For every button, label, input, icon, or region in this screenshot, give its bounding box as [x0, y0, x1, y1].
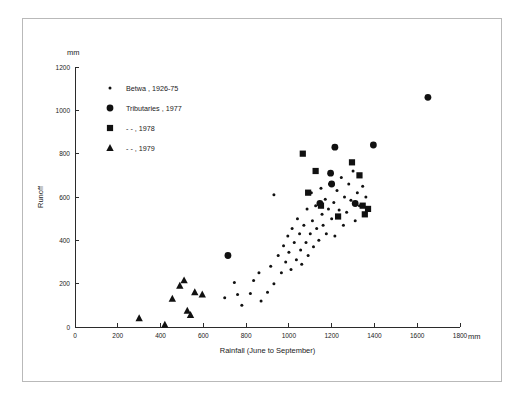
- data-point: [223, 296, 226, 299]
- data-point: [269, 265, 272, 268]
- data-point: [312, 245, 315, 248]
- data-point: [365, 206, 371, 212]
- series-1: [223, 170, 370, 307]
- data-point: [328, 181, 335, 188]
- series-2: [225, 94, 432, 259]
- data-point: [364, 196, 367, 199]
- data-point: [293, 241, 296, 244]
- data-point: [362, 211, 368, 217]
- data-point: [199, 291, 206, 298]
- data-point: [249, 292, 252, 295]
- x-tick-label: 1200: [324, 332, 339, 339]
- legend-label-4: - - , 1979: [126, 144, 155, 153]
- data-point: [352, 170, 355, 173]
- series-4: [135, 276, 205, 327]
- data-point: [252, 279, 255, 282]
- x-tick-label: 600: [198, 332, 209, 339]
- data-point: [327, 207, 330, 210]
- data-point: [225, 252, 232, 259]
- data-point: [349, 199, 352, 202]
- y-tick-label: 400: [59, 237, 70, 244]
- legend-label-3: - - , 1978: [126, 124, 155, 133]
- data-point: [299, 249, 302, 252]
- data-point: [298, 232, 301, 235]
- data-point: [311, 219, 314, 222]
- x-tick-label: 1600: [410, 332, 425, 339]
- data-point: [296, 217, 299, 220]
- data-point: [340, 176, 343, 179]
- tick-labels-group: 0200400600800100012001400160018000200400…: [56, 64, 468, 340]
- data-point: [302, 224, 305, 227]
- data-point: [284, 261, 287, 264]
- data-point: [287, 251, 290, 254]
- data-point: [347, 183, 350, 186]
- data-point: [324, 198, 327, 201]
- x-tick-label: 1000: [282, 332, 297, 339]
- data-point: [305, 190, 311, 196]
- legend-label-2: Tributaries , 1977: [126, 104, 182, 113]
- y-tick-label: 0: [66, 324, 70, 331]
- figure-page: 0200400600800100012001400160018000200400…: [0, 0, 525, 400]
- data-point: [135, 314, 142, 321]
- data-point: [272, 282, 275, 285]
- data-point: [240, 304, 243, 307]
- legend-marker-2: [107, 105, 114, 112]
- data-point: [317, 239, 320, 242]
- legend-marker-1: [109, 87, 112, 90]
- legend-label-1: Betwa , 1926-75: [126, 84, 178, 93]
- data-point: [349, 159, 355, 165]
- y-tick-label: 1200: [56, 64, 71, 71]
- y-tick-label: 800: [59, 150, 70, 157]
- x-tick-label: 200: [112, 332, 123, 339]
- data-point: [343, 196, 346, 199]
- data-point: [315, 227, 318, 230]
- x-tick-label: 400: [155, 332, 166, 339]
- data-point: [361, 185, 364, 188]
- data-point: [354, 219, 357, 222]
- data-point: [425, 94, 432, 101]
- data-point: [314, 204, 317, 207]
- data-point: [313, 168, 319, 174]
- data-point: [300, 151, 306, 157]
- y-tick-label: 200: [59, 280, 70, 287]
- data-point: [345, 211, 348, 214]
- data-point: [332, 201, 335, 204]
- data-point: [335, 213, 341, 219]
- y-tick-label: 600: [59, 194, 70, 201]
- x-tick-label: 1400: [367, 332, 382, 339]
- data-point: [330, 217, 333, 220]
- data-point: [282, 244, 285, 247]
- data-point: [333, 235, 336, 238]
- data-points-group: [135, 94, 431, 328]
- data-point: [300, 263, 303, 266]
- data-point: [280, 271, 283, 274]
- y-axis-title: Runoff: [36, 185, 45, 208]
- data-point: [336, 189, 339, 192]
- y-axis-unit-label: mm: [67, 48, 80, 57]
- data-point: [307, 254, 310, 257]
- data-point: [191, 288, 198, 295]
- data-point: [286, 235, 289, 238]
- data-point: [290, 268, 293, 271]
- x-tick-label: 0: [73, 332, 77, 339]
- legend-marker-4: [106, 144, 113, 151]
- data-point: [305, 241, 308, 244]
- data-point: [291, 227, 294, 230]
- data-point: [161, 321, 168, 328]
- chart-legend: Betwa , 1926-75Tributaries , 1977- - , 1…: [106, 84, 181, 153]
- data-point: [356, 172, 362, 178]
- data-point: [272, 193, 275, 196]
- data-point: [318, 203, 324, 209]
- scatter-plot: 0200400600800100012001400160018000200400…: [0, 0, 525, 400]
- data-point: [319, 187, 322, 190]
- data-point: [277, 254, 280, 257]
- data-point: [352, 200, 359, 207]
- data-point: [309, 232, 312, 235]
- x-axis-unit-label: mm: [468, 332, 481, 341]
- legend-marker-3: [107, 125, 113, 131]
- data-point: [360, 203, 366, 209]
- series-3: [300, 151, 371, 220]
- data-point: [180, 276, 187, 283]
- data-point: [233, 281, 236, 284]
- data-point: [306, 207, 309, 210]
